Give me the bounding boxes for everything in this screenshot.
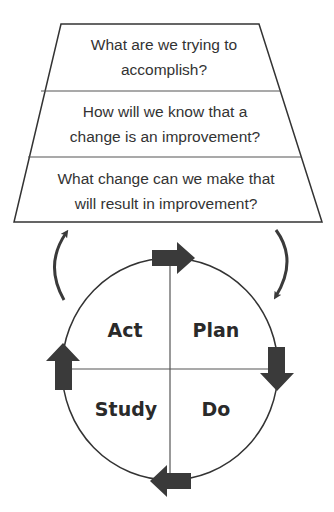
question-measure-line1: How will we know that a	[83, 103, 248, 120]
phase-plan-label: Plan	[193, 319, 240, 341]
question-change-line2: will result in improvement?	[74, 195, 258, 212]
arrow-up-icon	[46, 343, 80, 390]
phase-act-label: Act	[107, 319, 142, 341]
phase-do-label: Do	[202, 398, 231, 420]
arrow-right-icon	[152, 242, 195, 274]
question-measure-line2: change is an improvement?	[70, 128, 261, 145]
pdsa-diagram: What are we trying to accomplish? How wi…	[0, 0, 334, 512]
questions-trapezoid: What are we trying to accomplish? How wi…	[14, 24, 322, 222]
curved-arrow-up-icon	[54, 233, 66, 300]
trapezoid-outline	[14, 24, 322, 222]
question-change-line1: What change can we make that	[57, 170, 275, 187]
question-aim-line2: accomplish?	[121, 61, 208, 78]
phase-study-label: Study	[95, 398, 158, 420]
pdsa-cycle: Act Plan Study Do	[46, 242, 294, 497]
curved-arrow-down-icon	[276, 230, 287, 296]
question-aim-line1: What are we trying to	[91, 36, 237, 53]
